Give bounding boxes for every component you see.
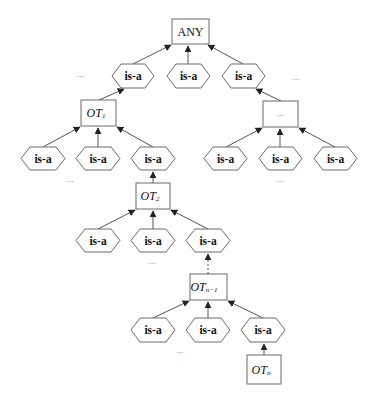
node-label: ANY	[178, 25, 204, 39]
edge-arrow	[99, 89, 124, 100]
node-ot2: OT2	[136, 183, 170, 209]
svg-text:is-a: is-a	[144, 324, 162, 336]
is-a-relation: is-a	[259, 147, 302, 170]
svg-text:is-a: is-a	[144, 235, 162, 247]
ellipsis: ...	[149, 256, 156, 266]
svg-text:is-a: is-a	[199, 235, 217, 247]
svg-text:is-a: is-a	[180, 70, 198, 82]
ellipsis: ...	[293, 72, 300, 82]
ontology-hierarchy-diagram: ANY OT1 ... OT2 OTn−1 OTn is-a is-a is-a…	[0, 0, 372, 398]
svg-text:is-a: is-a	[327, 153, 345, 165]
edge-arrow	[171, 210, 208, 229]
svg-text:is-a: is-a	[124, 70, 142, 82]
ellipsis: ...	[177, 345, 184, 355]
is-a-relation: is-a	[21, 147, 65, 170]
svg-text:is-a: is-a	[144, 153, 162, 165]
ellipsis: ...	[67, 174, 74, 184]
is-a-relation: is-a	[241, 318, 285, 342]
svg-text:is-a: is-a	[217, 153, 235, 165]
edge-arrow	[43, 127, 80, 147]
edge-arrow	[256, 89, 281, 101]
edge-arrow	[228, 301, 263, 318]
ellipsis: ...	[77, 69, 84, 79]
is-a-relation: is-a	[131, 147, 175, 170]
is-a-relation: is-a	[186, 318, 230, 342]
is-a-relation: is-a	[222, 64, 265, 88]
edge-arrow	[208, 45, 243, 64]
node-ot1: OT1	[81, 100, 116, 126]
node-unknown: ...	[263, 101, 298, 127]
is-a-relation: is-a	[204, 147, 247, 170]
is-a-relation: is-a	[167, 64, 210, 88]
node-otn: OTn	[247, 355, 281, 384]
edges	[43, 45, 335, 355]
is-a-relation: is-a	[112, 64, 154, 88]
svg-text:is-a: is-a	[254, 324, 272, 336]
edge-arrow	[153, 301, 189, 318]
ellipsis: ...	[277, 174, 284, 184]
svg-text:is-a: is-a	[89, 153, 107, 165]
edge-arrow	[117, 127, 153, 147]
svg-text:is-a: is-a	[89, 235, 107, 247]
is-a-relation: is-a	[314, 147, 357, 170]
is-a-relation: is-a	[76, 147, 120, 170]
is-a-relation: is-a	[76, 229, 120, 252]
is-a-relation: is-a	[131, 318, 175, 342]
svg-text:is-a: is-a	[272, 153, 290, 165]
node-otn-1: OTn−1	[190, 274, 227, 300]
relations: is-a is-a is-a is-a is-a is-a is-a is-a …	[21, 64, 357, 342]
node-any: ANY	[172, 19, 209, 44]
edge-arrow	[226, 128, 262, 147]
node-label: ...	[277, 108, 284, 118]
svg-text:is-a: is-a	[199, 324, 217, 336]
edge-arrow	[299, 128, 335, 147]
svg-text:is-a: is-a	[235, 70, 253, 82]
edge-arrow	[98, 210, 135, 229]
edge-arrow	[133, 45, 171, 64]
svg-text:is-a: is-a	[34, 153, 52, 165]
is-a-relation: is-a	[186, 229, 230, 252]
is-a-relation: is-a	[131, 229, 175, 252]
